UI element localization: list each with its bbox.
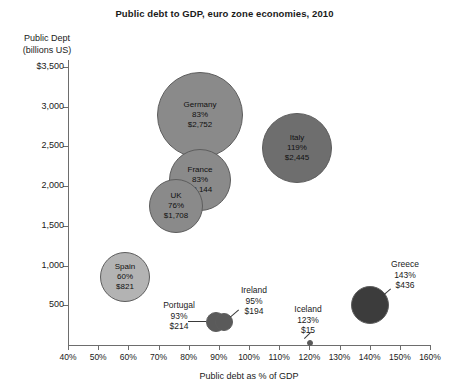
chart-title: Public debt to GDP, euro zone economies,…	[0, 8, 449, 19]
bubble-spain[interactable]: Spain60%$821	[100, 252, 150, 302]
bubble-country-label: Spain	[115, 262, 135, 272]
x-tick-label: 120%	[298, 352, 320, 362]
y-tick-label: 500	[49, 299, 64, 309]
y-tick-label: 2,500	[41, 140, 64, 150]
bubble-country-label: Italy	[290, 133, 305, 143]
x-tick-label: 80%	[180, 352, 197, 362]
x-tick-mark	[340, 345, 341, 350]
x-tick-label: 70%	[150, 352, 167, 362]
y-tick-label: 1,500	[41, 220, 64, 230]
bubble-debt-label: $2,752	[188, 120, 212, 130]
bubble-greece[interactable]	[351, 286, 389, 324]
x-tick-mark	[279, 345, 280, 350]
bubble-debt-label: $821	[116, 282, 134, 292]
bubble-germany[interactable]: Germany83%$2,752	[157, 72, 243, 158]
x-tick-mark	[98, 345, 99, 350]
x-tick-label: 110%	[269, 352, 290, 362]
bubble-percent-label: 76%	[168, 201, 184, 211]
x-axis-label: Public debt as % of GDP	[68, 371, 430, 381]
y-tick-label: 1,000	[41, 260, 64, 270]
x-tick-label: 50%	[90, 352, 107, 362]
bubble-country-label: France	[188, 165, 213, 175]
x-tick-mark	[219, 345, 220, 350]
callout-country-label: Greece	[382, 259, 428, 270]
y-axis-label-line2: (billions US)	[23, 45, 72, 55]
bubble-chart: Public debt to GDP, euro zone economies,…	[0, 0, 449, 391]
bubble-debt-label: $2,445	[285, 153, 309, 163]
callout-iceland: Iceland123%$15	[286, 304, 330, 336]
callout-country-label: Ireland	[232, 285, 276, 296]
callout-percent-label: 123%	[286, 315, 330, 326]
bubble-uk[interactable]: UK76%$1,708	[149, 179, 203, 233]
y-axis-label: Public Dept (billions US)	[8, 32, 86, 56]
bubble-debt-label: $1,708	[164, 211, 188, 221]
x-tick-label: 90%	[210, 352, 227, 362]
x-tick-mark	[430, 345, 431, 350]
callout-debt-label: $436	[382, 280, 428, 291]
bubble-country-label: Germany	[184, 100, 217, 110]
callout-percent-label: 95%	[232, 296, 276, 307]
x-tick-mark	[249, 345, 250, 350]
y-axis-label-line1: Public Dept	[24, 33, 70, 43]
y-tick-label: 3,000	[41, 101, 64, 111]
x-tick-label: 160%	[419, 352, 441, 362]
x-tick-mark	[370, 345, 371, 350]
x-tick-label: 100%	[238, 352, 260, 362]
y-tick-label: $3,500	[36, 61, 64, 71]
bubble-percent-label: 60%	[117, 272, 133, 282]
x-tick-label: 130%	[329, 352, 351, 362]
x-tick-label: 60%	[120, 352, 137, 362]
x-tick-mark	[159, 345, 160, 350]
bubble-percent-label: 83%	[192, 110, 208, 120]
bubble-country-label: UK	[170, 191, 181, 201]
x-tick-mark	[189, 345, 190, 350]
callout-percent-label: 143%	[382, 270, 428, 281]
x-tick-label: 40%	[59, 352, 76, 362]
x-tick-label: 150%	[389, 352, 411, 362]
callout-percent-label: 93%	[155, 311, 203, 322]
x-tick-label: 140%	[359, 352, 381, 362]
bubble-percent-label: 119%	[287, 143, 307, 153]
callout-greece: Greece143%$436	[382, 259, 428, 291]
callout-country-label: Iceland	[286, 304, 330, 315]
callout-debt-label: $214	[155, 321, 203, 332]
bubble-percent-label: 83%	[192, 175, 208, 185]
callout-portugal: Portugal93%$214	[155, 300, 203, 332]
y-tick-label: 2,000	[41, 180, 64, 190]
callout-debt-label: $15	[286, 325, 330, 336]
bubble-iceland[interactable]	[307, 340, 313, 346]
callout-debt-label: $194	[232, 306, 276, 317]
callout-ireland: Ireland95%$194	[232, 285, 276, 317]
x-tick-mark	[68, 345, 69, 350]
x-tick-mark	[128, 345, 129, 350]
bubble-italy[interactable]: Italy119%$2,445	[262, 113, 332, 183]
x-tick-mark	[400, 345, 401, 350]
callout-country-label: Portugal	[155, 300, 203, 311]
